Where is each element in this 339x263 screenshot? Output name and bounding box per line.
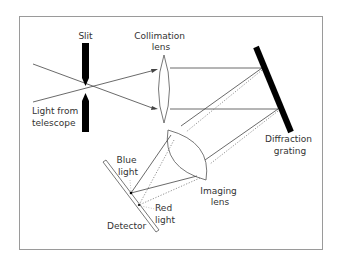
blue-light-label: Blue light xyxy=(117,155,140,177)
incoming-ray-lower xyxy=(33,70,155,102)
collimation-lens xyxy=(159,55,170,123)
incoming-ray-upper xyxy=(33,64,155,109)
diffraction-grating xyxy=(256,47,291,132)
focused-red-ray-2 xyxy=(139,178,200,205)
slit-lower-jaw xyxy=(82,93,89,132)
imaging-lens-label: Imaging lens xyxy=(200,186,239,207)
light-from-telescope-label: Light from telescope xyxy=(32,106,81,128)
blue-light-leader xyxy=(130,180,131,191)
slit-upper-jaw xyxy=(82,43,89,86)
collimation-lens-label: Collimation lens xyxy=(134,31,188,52)
imaging-lens xyxy=(167,130,206,180)
blue-focus-point xyxy=(130,192,133,195)
diffracted-red-ray-1 xyxy=(186,70,262,132)
spectrograph-diagram: Slit Collimation lens Light from telesco… xyxy=(0,0,339,263)
red-focus-point xyxy=(138,204,140,206)
red-light-label: Red light xyxy=(155,203,175,225)
slit-label: Slit xyxy=(78,31,93,41)
diffraction-grating-label: Diffraction grating xyxy=(265,134,315,156)
arrowhead xyxy=(151,69,158,73)
diffracted-blue-ray-1 xyxy=(181,68,262,126)
detector-label: Detector xyxy=(107,221,147,231)
arrowhead xyxy=(151,106,158,110)
